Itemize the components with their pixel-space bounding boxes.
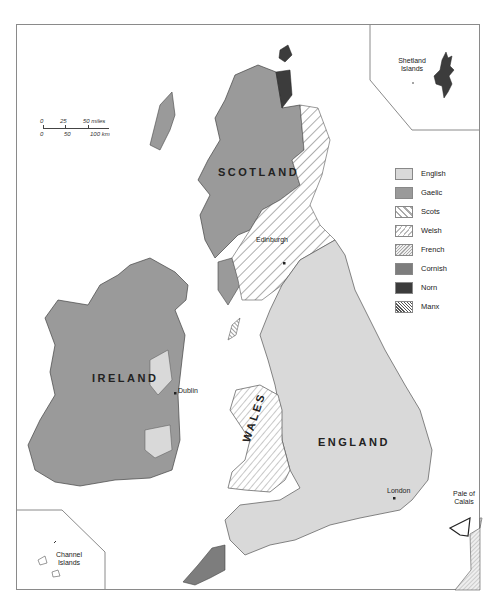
channel-inset	[16, 510, 105, 590]
label-channel-islands: Channel Islands	[54, 551, 84, 567]
label-edinburgh: Edinburgh	[256, 236, 288, 244]
scale-miles-0: 0	[40, 118, 43, 124]
label-dublin: Dublin	[178, 387, 198, 395]
scale-line	[43, 128, 109, 129]
isle-of-man	[228, 318, 240, 340]
legend-item-cornish: Cornish	[395, 259, 447, 278]
label-shetland-islands: Shetland Islands	[397, 57, 427, 73]
legend-label: Gaelic	[421, 188, 442, 197]
shetland-inset	[370, 24, 480, 130]
legend-label: Scots	[421, 207, 440, 216]
pale-of-calais-region	[450, 518, 482, 590]
legend-label: Welsh	[421, 226, 442, 235]
swatch-scots	[395, 206, 413, 218]
label-ireland: IRELAND	[92, 372, 158, 384]
legend-item-norn: Norn	[395, 278, 447, 297]
legend: English Gaelic Scots Welsh French Cornis…	[395, 164, 447, 316]
scale-km-50: 50	[64, 131, 71, 137]
scale-tick	[88, 125, 89, 128]
cornwall-region	[183, 545, 225, 585]
legend-item-gaelic: Gaelic	[395, 183, 447, 202]
swatch-english	[395, 168, 413, 180]
label-scotland: SCOTLAND	[218, 166, 299, 178]
label-london: London	[387, 487, 410, 495]
legend-item-scots: Scots	[395, 202, 447, 221]
swatch-french	[395, 244, 413, 256]
legend-item-welsh: Welsh	[395, 221, 447, 240]
legend-label: French	[421, 245, 444, 254]
scale-miles-50: 50 miles	[83, 118, 105, 124]
legend-label: English	[421, 169, 446, 178]
label-pale-of-calais: Pale of Calais	[452, 490, 476, 506]
swatch-welsh	[395, 225, 413, 237]
swatch-manx	[395, 301, 413, 313]
swatch-norn	[395, 282, 413, 294]
scale-km-100: 100 km	[90, 131, 110, 137]
scale-tick	[65, 125, 66, 128]
orkney-islands	[279, 45, 292, 62]
scale-miles-25: 25	[60, 118, 67, 124]
legend-label: Cornish	[421, 264, 447, 273]
scale-bar: 0 25 50 miles 0 50 100 km	[40, 118, 120, 142]
scale-tick	[43, 125, 44, 128]
label-england: ENGLAND	[318, 436, 390, 448]
swatch-gaelic	[395, 187, 413, 199]
legend-item-manx: Manx	[395, 297, 447, 316]
legend-item-french: French	[395, 240, 447, 259]
swatch-cornish	[395, 263, 413, 275]
legend-label: Manx	[421, 302, 439, 311]
hebrides	[150, 92, 175, 150]
scale-km-0: 0	[40, 131, 43, 137]
legend-label: Norn	[421, 283, 437, 292]
legend-item-english: English	[395, 164, 447, 183]
